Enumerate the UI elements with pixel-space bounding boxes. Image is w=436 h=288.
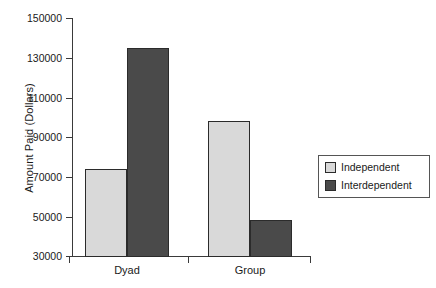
y-axis-tick-label: 150000 <box>2 13 62 23</box>
y-axis-tick <box>66 177 73 178</box>
y-axis-tick-label: 30000 <box>2 251 62 261</box>
bar-chart: Amount Paid (Dollars) 150000 130000 1100… <box>0 0 436 288</box>
legend-item-independent[interactable]: Independent <box>325 161 399 173</box>
y-axis-tick-label: 70000 <box>2 172 62 182</box>
legend-item-interdependent[interactable]: Interdependent <box>325 179 412 191</box>
y-axis-tick-label: 130000 <box>2 53 62 63</box>
x-axis-category-label-group: Group <box>208 264 292 276</box>
y-axis-tick <box>66 98 73 99</box>
y-axis-tick-label: 50000 <box>2 212 62 222</box>
legend-label-interdependent: Interdependent <box>341 179 412 191</box>
y-axis-tick <box>66 137 73 138</box>
legend: Independent Interdependent <box>318 155 430 198</box>
y-axis-tick-label: 110000 <box>2 93 62 103</box>
x-axis-category-label-dyad: Dyad <box>85 264 169 276</box>
legend-swatch-interdependent-icon <box>325 180 336 191</box>
bar-group-independent[interactable] <box>208 121 250 257</box>
x-axis-right-cap <box>310 256 311 263</box>
legend-label-independent: Independent <box>341 161 399 173</box>
bar-dyad-independent[interactable] <box>85 169 127 257</box>
y-axis-tick <box>66 256 73 257</box>
x-axis-left-cap <box>69 256 70 263</box>
x-axis-center-tick <box>188 256 189 263</box>
legend-swatch-independent-icon <box>325 162 336 173</box>
y-axis-tick <box>66 18 73 19</box>
y-axis-tick <box>66 217 73 218</box>
bar-dyad-interdependent[interactable] <box>127 48 169 257</box>
y-axis-tick-label: 90000 <box>2 132 62 142</box>
bar-group-interdependent[interactable] <box>250 220 292 257</box>
y-axis-tick <box>66 58 73 59</box>
